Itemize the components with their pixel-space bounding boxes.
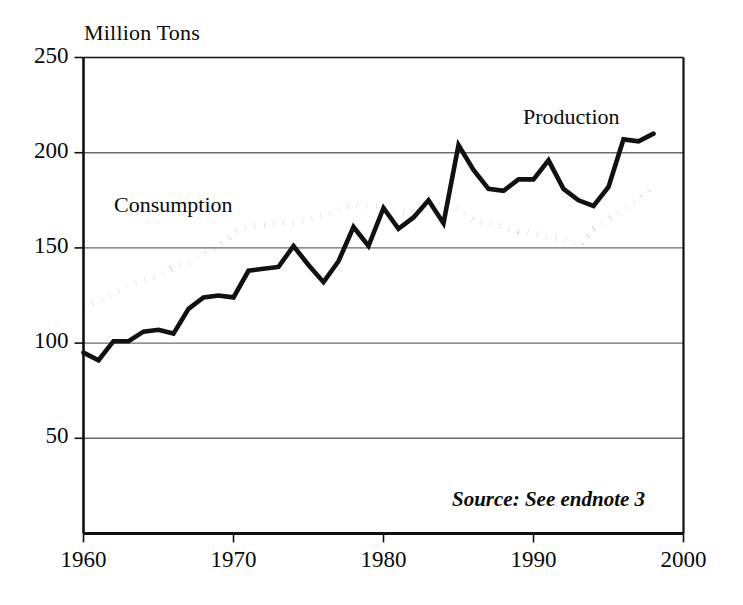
series-label-production: Production [523, 104, 620, 130]
series-label-consumption: Consumption [114, 192, 233, 218]
chart-container: Million Tons 250 200 150 100 50 1960 197… [0, 0, 743, 605]
x-axis-tick-label: 2000 [639, 547, 729, 573]
y-axis-tick-label: 150 [11, 233, 69, 259]
x-axis-tick-label: 1990 [489, 547, 579, 573]
y-axis-tick-label: 250 [11, 43, 69, 69]
x-axis-tick-label: 1970 [189, 547, 279, 573]
y-axis-tick-label: 100 [11, 328, 69, 354]
x-axis-tick-label: 1980 [339, 547, 429, 573]
source-note: Source: See endnote 3 [452, 487, 645, 512]
y-axis-tick-label: 50 [11, 423, 69, 449]
axis-ticks [75, 58, 684, 543]
x-axis-tick-label: 1960 [39, 547, 129, 573]
y-axis-title: Million Tons [84, 20, 200, 46]
line-chart-plot [0, 0, 743, 605]
series-production-line [84, 134, 654, 361]
y-axis-tick-label: 200 [11, 138, 69, 164]
